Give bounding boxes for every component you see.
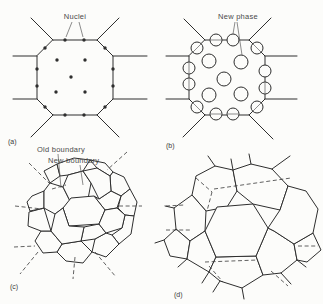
panel-d: (d) — [155, 154, 321, 299]
interior-new-phase-circles — [202, 54, 248, 102]
panel-c-label: (c) — [10, 283, 18, 291]
panel-d-label: (d) — [174, 291, 183, 299]
panel-a-external-boundaries — [13, 18, 147, 137]
boundary-nuclei-dots — [35, 38, 114, 116]
old-boundary-label: Old boundary — [37, 145, 85, 154]
panel-b-label: (b) — [166, 142, 175, 150]
old-grain-octagon — [37, 40, 113, 115]
nuclei-leader-lines — [66, 22, 83, 37]
panel-a-label: (a) — [8, 138, 17, 146]
panel-b: New phase (b) — [166, 12, 297, 150]
interior-nuclei-dots — [54, 58, 86, 93]
new-boundary-label: New boundary — [48, 156, 99, 165]
new-phase-label: New phase — [218, 12, 258, 21]
panel-a: Nuclei (a) — [8, 12, 147, 146]
nuclei-label: Nuclei — [64, 12, 86, 21]
recrystallization-diagram: Nuclei (a) — [0, 0, 323, 304]
hatched-grain-center-d — [205, 204, 268, 257]
panel-c: Old boundary New boundary (c) — [10, 145, 142, 291]
hatched-grain-top-d — [233, 164, 288, 210]
